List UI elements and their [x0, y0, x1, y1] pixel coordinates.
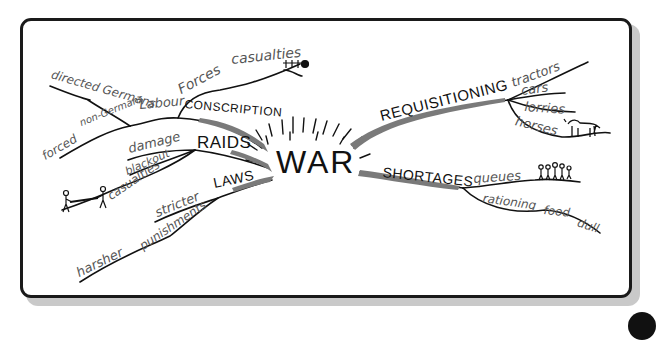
node-food: food — [543, 204, 571, 219]
branch-raids: RAIDS — [197, 134, 251, 151]
node-lorries: lorries — [524, 100, 565, 116]
horse-icon — [564, 119, 600, 137]
node-queues: queues — [473, 169, 521, 185]
center-node-war: WAR — [276, 146, 355, 178]
people-queue-icon — [539, 163, 571, 180]
node-cars: cars — [520, 80, 549, 97]
